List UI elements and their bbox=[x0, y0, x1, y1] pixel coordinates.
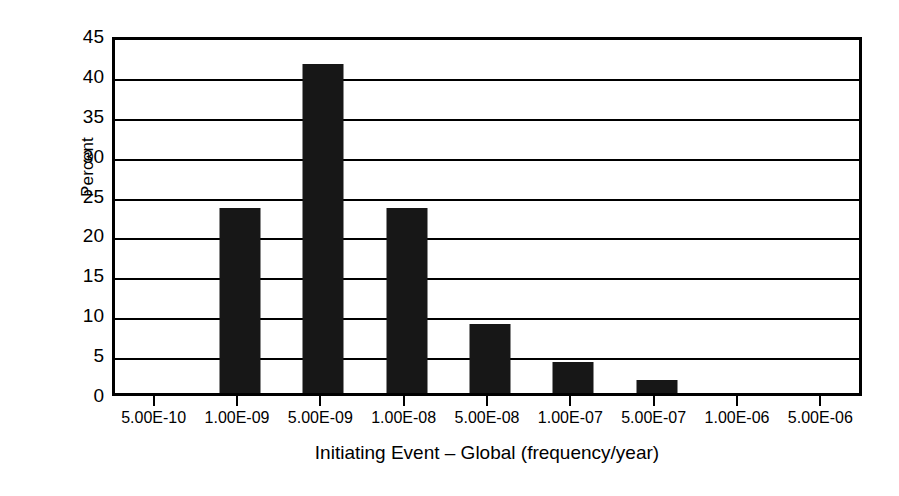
bar[interactable] bbox=[553, 362, 594, 393]
x-axis-title: Initiating Event – Global (frequency/yea… bbox=[112, 440, 862, 466]
y-axis-tick-label: 35 bbox=[56, 107, 104, 126]
bar[interactable] bbox=[386, 208, 427, 393]
x-axis-tick bbox=[819, 396, 821, 406]
x-axis-tick bbox=[403, 396, 405, 406]
bar[interactable] bbox=[469, 324, 510, 393]
y-axis-tick-label: 20 bbox=[56, 226, 104, 245]
y-axis-tick-label: 30 bbox=[56, 147, 104, 166]
x-axis-tick bbox=[653, 396, 655, 406]
x-axis-tick-label: 5.00E-06 bbox=[765, 407, 875, 429]
bar-slot bbox=[198, 40, 281, 393]
bar-slot bbox=[698, 40, 781, 393]
x-axis-tick bbox=[153, 396, 155, 406]
bar[interactable] bbox=[636, 380, 677, 393]
x-axis-tick bbox=[736, 396, 738, 406]
y-axis-tick-label: 0 bbox=[56, 386, 104, 405]
bar-slot bbox=[115, 40, 198, 393]
x-axis-tick bbox=[319, 396, 321, 406]
bar-slot bbox=[448, 40, 531, 393]
bar-chart: Percent 454035302520151050 5.00E-101.00E… bbox=[0, 0, 899, 496]
y-axis-tick-label: 45 bbox=[56, 27, 104, 46]
x-axis-tick bbox=[569, 396, 571, 406]
x-axis-ticks bbox=[112, 396, 862, 406]
bar[interactable] bbox=[219, 208, 260, 393]
plot-area bbox=[112, 37, 862, 396]
x-axis-tick-labels: 5.00E-101.00E-095.00E-091.00E-085.00E-08… bbox=[112, 407, 862, 433]
bar-slot bbox=[782, 40, 865, 393]
bar-slot bbox=[532, 40, 615, 393]
bar[interactable] bbox=[303, 64, 344, 393]
y-axis-tick-label: 15 bbox=[56, 266, 104, 285]
y-axis-tick-label: 25 bbox=[56, 187, 104, 206]
y-axis-tick-label: 10 bbox=[56, 306, 104, 325]
bars-layer bbox=[115, 40, 859, 393]
bar-slot bbox=[615, 40, 698, 393]
bar-slot bbox=[365, 40, 448, 393]
x-axis-tick bbox=[236, 396, 238, 406]
y-axis-tick-labels: 454035302520151050 bbox=[56, 37, 104, 396]
y-axis-tick-label: 5 bbox=[56, 346, 104, 365]
y-axis-tick-label: 40 bbox=[56, 67, 104, 86]
x-axis-tick bbox=[486, 396, 488, 406]
bar-slot bbox=[282, 40, 365, 393]
